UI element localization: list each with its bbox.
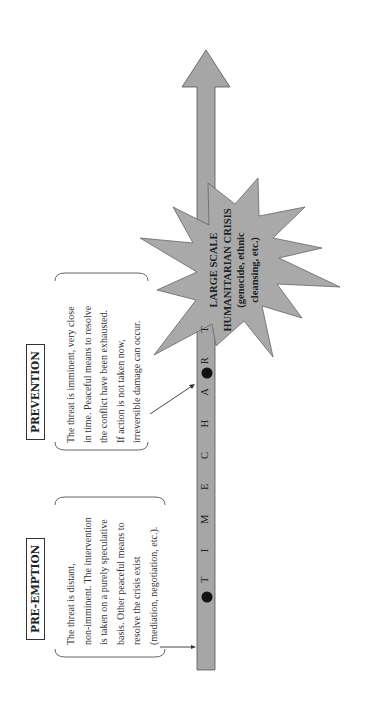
description-line: irreversible damage can occur. bbox=[129, 306, 146, 443]
prevention-pointer-arrow bbox=[150, 386, 192, 414]
description-line: (mediation, negotiation, etc.). bbox=[146, 517, 163, 645]
timeline-label: T I M E C H A R T bbox=[199, 315, 210, 583]
pre-emption-title: PRE-EMPTION bbox=[26, 538, 45, 640]
description-line: non-imminent. The intervention bbox=[80, 517, 97, 645]
pre-emption-marker-dot bbox=[202, 592, 213, 603]
diagram-canvas bbox=[0, 0, 365, 715]
crisis-line: cleansing, etc.) bbox=[248, 200, 262, 340]
description-line: resolve the crisis exist bbox=[129, 517, 146, 645]
crisis-line: LARGE SCALE bbox=[207, 200, 221, 340]
crisis-label: LARGE SCALE HUMANITARIAN CRISIS (genocid… bbox=[207, 200, 261, 340]
description-line: The threat is imminent, very close bbox=[63, 306, 80, 443]
description-line: in time. Peaceful means to resolve bbox=[80, 306, 97, 443]
description-line: is taken on a purely speculative bbox=[96, 517, 113, 645]
description-line: the conflict have been exhausted. bbox=[96, 306, 113, 443]
description-line: If action is not taken now, bbox=[113, 306, 130, 443]
prevention-description: The threat is imminent, very close in ti… bbox=[63, 306, 146, 443]
description-line: basis. Other peaceful means to bbox=[113, 517, 130, 645]
prevention-title: PREVENTION bbox=[26, 344, 45, 440]
pre-emption-description: The threat is distant, non-imminent. The… bbox=[63, 517, 162, 645]
crisis-line: HUMANITARIAN CRISIS bbox=[221, 200, 235, 340]
description-line: The threat is distant, bbox=[63, 517, 80, 645]
crisis-line: (genocide, ethnic bbox=[234, 200, 248, 340]
